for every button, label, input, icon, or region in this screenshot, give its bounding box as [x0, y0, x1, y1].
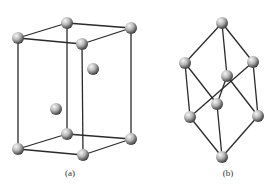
panel-a-edges: [18, 23, 131, 155]
atom-top-front-left: [12, 32, 24, 44]
bond-line: [82, 28, 131, 44]
bond-line: [185, 63, 190, 117]
bond-line: [222, 23, 227, 76]
atom-bottom-back-right: [125, 133, 137, 145]
atom-lower-right: [252, 110, 264, 122]
bond-line: [18, 38, 82, 44]
atom-bottom-back-left: [61, 128, 73, 140]
bond-line: [185, 23, 222, 63]
atom-top: [216, 17, 228, 29]
bond-line: [253, 62, 258, 116]
bond-line: [217, 104, 222, 157]
bond-line: [67, 134, 131, 139]
panel-a-unit-cell: (a): [12, 17, 137, 178]
atom-bottom-front-left: [12, 143, 24, 155]
atom-upper-right: [247, 56, 259, 68]
atom-inner-lower: [50, 103, 62, 115]
panel-b-label: (b): [223, 168, 234, 178]
atom-top-back-left: [61, 17, 73, 29]
bond-line: [83, 139, 131, 155]
panel-b-edges: [185, 23, 258, 157]
bond-line: [67, 23, 131, 28]
bond-line: [18, 149, 83, 155]
bond-line: [227, 76, 258, 116]
atom-top-front-right: [76, 38, 88, 50]
crystal-lattice-diagram: (a) (b): [0, 0, 271, 191]
bond-line: [18, 23, 67, 38]
bond-line: [222, 116, 258, 157]
bond-line: [18, 134, 67, 149]
bond-line: [222, 23, 253, 62]
panel-b-rhombohedral-cell: (b): [179, 17, 264, 178]
atom-lower-left: [184, 111, 196, 123]
atom-middle-front: [211, 98, 223, 110]
bond-line: [82, 44, 83, 155]
atom-bottom-front-right: [77, 149, 89, 161]
atom-inner-upper: [87, 63, 99, 75]
atom-middle-back: [221, 70, 233, 82]
panel-a-label: (a): [65, 168, 75, 178]
atom-upper-left: [179, 57, 191, 69]
atom-bottom: [216, 151, 228, 163]
atom-top-back-right: [125, 22, 137, 34]
bond-line: [190, 117, 222, 157]
